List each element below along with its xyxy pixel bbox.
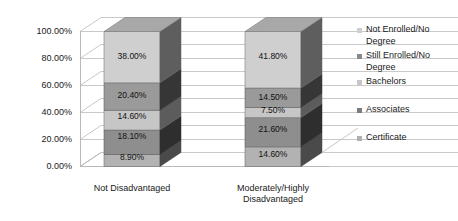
- legend-label-line1: Still Enrolled/No: [366, 50, 430, 60]
- depth-line-20: [80, 126, 101, 140]
- legend-label-line1: Bachelors: [366, 76, 406, 86]
- y-tick-label-60: 60.00%: [14, 80, 72, 90]
- legend-label: Not Enrolled/No Degree: [366, 24, 430, 47]
- legend-label-line1: Certificate: [366, 132, 407, 142]
- depth-line-60: [80, 72, 101, 86]
- y-tick-label-20: 20.00%: [14, 134, 72, 144]
- y-tick-label-80: 80.00%: [14, 53, 72, 63]
- legend-label: Bachelors: [366, 76, 406, 88]
- floor-depth-line: [80, 153, 101, 167]
- chart-legend: Not Enrolled/No Degree Still Enrolled/No…: [357, 24, 458, 144]
- value-label-bachelors: 7.50%: [245, 105, 301, 115]
- y-tick-label-0: 0.00%: [14, 161, 72, 171]
- legend-label: Certificate: [366, 132, 407, 144]
- value-label-associates: 21.60%: [245, 124, 301, 134]
- legend-swatch-icon: [357, 136, 362, 141]
- legend-label-line1: Associates: [366, 104, 410, 114]
- value-label-still-enrolled: 20.40%: [104, 90, 160, 100]
- legend-swatch-icon: [357, 54, 362, 59]
- chart-3d-stacked-column: 100.00% 80.00% 60.00% 40.00% 20.00% 0.00…: [0, 0, 458, 221]
- value-label-not-enrolled: 38.00%: [104, 51, 160, 61]
- legend-swatch-icon: [357, 80, 362, 85]
- legend-item-still-enrolled[interactable]: Still Enrolled/No Degree: [357, 50, 458, 73]
- value-label-bachelors: 14.60%: [104, 111, 160, 121]
- value-label-certificate: 14.60%: [245, 149, 301, 159]
- legend-label: Still Enrolled/No Degree: [366, 50, 430, 73]
- x-category-label-moderately-highly-disadvantaged: Moderately/Highly Disadvantaged: [215, 183, 331, 205]
- depth-line-80: [80, 45, 101, 59]
- x-category-line1: Not Disadvantaged: [94, 183, 171, 193]
- depth-line-100: [80, 18, 101, 32]
- legend-swatch-icon: [357, 108, 362, 113]
- legend-item-not-enrolled[interactable]: Not Enrolled/No Degree: [357, 24, 458, 47]
- value-label-certificate: 8.90%: [104, 152, 160, 162]
- legend-label: Associates: [366, 104, 410, 116]
- legend-swatch-icon: [357, 28, 362, 33]
- x-category-label-not-disadvantaged: Not Disadvantaged: [72, 183, 192, 194]
- leader-line-certificate: [322, 128, 358, 153]
- y-tick-label-100: 100.00%: [14, 26, 72, 36]
- x-category-line1: Moderately/Highly: [237, 183, 309, 193]
- legend-item-certificate[interactable]: Certificate: [357, 132, 458, 144]
- value-label-not-enrolled: 41.80%: [245, 51, 301, 61]
- y-tick-label-40: 40.00%: [14, 107, 72, 117]
- legend-label-line1: Not Enrolled/No: [366, 24, 430, 34]
- depth-line-40: [80, 99, 101, 113]
- legend-item-associates[interactable]: Associates: [357, 104, 458, 116]
- value-label-associates: 18.10%: [104, 131, 160, 141]
- value-label-still-enrolled: 14.50%: [245, 92, 301, 102]
- legend-label-line2: Degree: [366, 62, 396, 72]
- x-category-line2: Disadvantaged: [243, 194, 303, 204]
- legend-item-bachelors[interactable]: Bachelors: [357, 76, 458, 88]
- legend-label-line2: Degree: [366, 36, 396, 46]
